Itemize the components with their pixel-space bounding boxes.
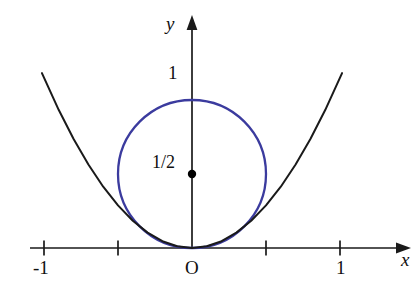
- x-tick-label-one: 1: [336, 258, 346, 277]
- y-axis-arrowhead: [187, 15, 198, 30]
- axes-group: [30, 15, 411, 256]
- circle-center-label: 1/2: [152, 153, 175, 171]
- origin-label: O: [185, 258, 199, 277]
- y-axis-label: y: [166, 14, 174, 33]
- y-tick-label-one: 1: [168, 63, 178, 82]
- circle-center-dot: [188, 170, 196, 178]
- figure-canvas: [0, 0, 418, 289]
- math-figure: y x 1 1/2 O -1 1: [0, 0, 418, 289]
- x-axis-label: x: [401, 250, 409, 269]
- x-tick-label-neg-one: -1: [33, 258, 49, 277]
